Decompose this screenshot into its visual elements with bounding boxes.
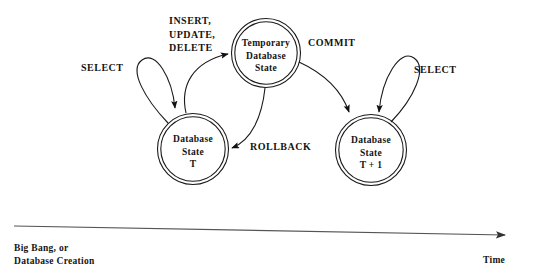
edge-select-left-loop[interactable] xyxy=(137,58,175,123)
timeline-origin-label-line2: Database Creation xyxy=(14,255,95,268)
timeline-end-label: Time xyxy=(483,254,505,267)
node-temporary-state[interactable] xyxy=(232,19,301,88)
edge-commit-curve[interactable] xyxy=(299,62,349,112)
edge-select-right-label: SELECT xyxy=(414,63,456,77)
edge-dml-curve[interactable] xyxy=(185,54,228,113)
edge-rollback-label: ROLLBACK xyxy=(250,140,311,154)
edge-commit-label: COMMIT xyxy=(308,36,355,50)
edge-dml-label-line1: INSERT, xyxy=(169,14,215,28)
node-state-t-plus-1-outer-circle xyxy=(336,115,407,186)
node-temporary-state-outer-circle xyxy=(232,19,301,88)
diagram-graphics xyxy=(0,0,535,277)
timeline-origin-label: Big Bang, or Database Creation xyxy=(14,242,95,267)
edge-select-left-label: SELECT xyxy=(81,61,123,75)
timeline-origin-label-line1: Big Bang, or xyxy=(14,242,95,255)
edge-dml-label-line2: UPDATE, xyxy=(169,28,215,42)
node-temporary-state-inner-circle xyxy=(235,22,297,84)
time-axis-arrow xyxy=(14,226,505,235)
node-state-t-plus-1-inner-circle xyxy=(339,118,403,182)
edge-rollback-curve[interactable] xyxy=(232,88,265,148)
node-state-t-inner-circle xyxy=(161,117,225,181)
node-state-t-plus-1[interactable] xyxy=(336,115,407,186)
diagram-canvas: Database State T Temporary Database Stat… xyxy=(0,0,535,277)
node-state-t-outer-circle xyxy=(158,114,229,185)
edge-dml-label: INSERT, UPDATE, DELETE xyxy=(169,14,215,55)
node-state-t[interactable] xyxy=(158,114,229,185)
edge-dml-label-line3: DELETE xyxy=(169,41,215,55)
